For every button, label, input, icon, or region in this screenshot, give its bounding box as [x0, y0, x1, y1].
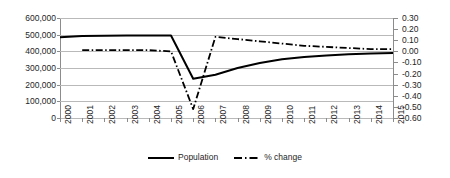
legend-label: % change: [264, 153, 302, 162]
legend-item[interactable]: Population: [148, 153, 218, 162]
chart-legend: Population% change: [0, 153, 450, 162]
series-line-population: [60, 36, 393, 79]
data-series-layer: [0, 0, 450, 178]
series-line-change: [82, 37, 393, 109]
dash-dot-line-icon: [234, 154, 260, 162]
legend-item[interactable]: % change: [234, 153, 302, 162]
solid-line-icon: [148, 154, 174, 162]
legend-label: Population: [178, 153, 218, 162]
chart-container: 0100,000200,000300,000400,000500,000600,…: [0, 0, 450, 178]
